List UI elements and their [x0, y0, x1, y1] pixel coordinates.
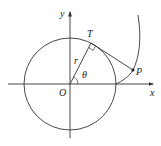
angle-arc — [74, 77, 78, 84]
diagram-canvas: y x O T P r θ — [0, 0, 161, 146]
right-angle-marker — [89, 46, 96, 51]
involute-diagram: y x O T P r θ — [0, 0, 161, 146]
angle-label: θ — [82, 69, 87, 80]
origin-label: O — [59, 87, 66, 98]
x-axis-label: x — [149, 87, 155, 98]
point-p-label: P — [135, 66, 142, 77]
point-p-dot — [131, 68, 134, 71]
y-axis-label: y — [59, 8, 65, 19]
radius-label: r — [74, 55, 78, 66]
tangent-point-label: T — [87, 28, 94, 39]
